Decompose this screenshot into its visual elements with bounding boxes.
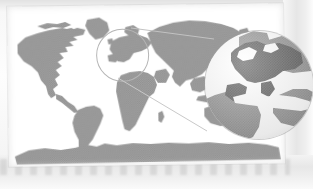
figure-canvas xyxy=(0,0,313,189)
magnifier-callout xyxy=(205,31,313,139)
lens-outline-ring xyxy=(205,31,313,139)
